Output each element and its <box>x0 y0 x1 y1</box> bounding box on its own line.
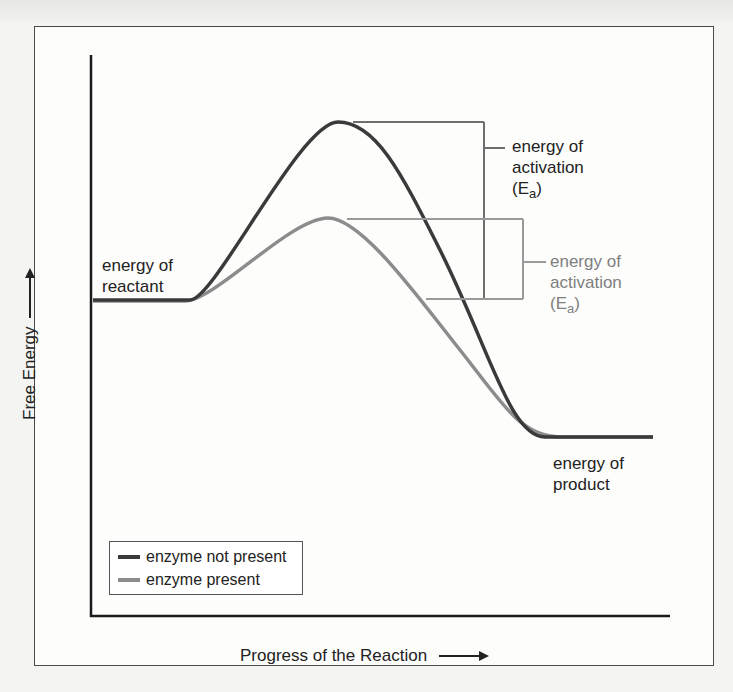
label-line: reactant <box>102 276 173 297</box>
legend-item-enzyme-not-present: enzyme not present <box>118 545 302 568</box>
ea-symbol: (E <box>550 294 567 313</box>
bracket-activation-enzyme <box>347 219 546 299</box>
label-line: activation <box>512 157 584 178</box>
legend: enzyme not present enzyme present <box>109 541 303 595</box>
legend-label: enzyme not present <box>146 548 287 566</box>
bracket-activation-no-enzyme <box>353 122 505 299</box>
label-activation-enzyme: energy of activation (Ea) <box>550 251 622 319</box>
ea-close: ) <box>536 179 542 198</box>
label-line: energy of <box>553 453 624 474</box>
arrow-up-icon <box>29 270 31 318</box>
label-line: (Ea) <box>512 178 584 204</box>
ea-close: ) <box>574 294 580 313</box>
label-line: (Ea) <box>550 293 622 319</box>
label-line: energy of <box>102 255 173 276</box>
legend-swatch-dark <box>118 555 140 559</box>
legend-label: enzyme present <box>146 571 260 589</box>
label-line: product <box>553 474 624 495</box>
x-axis-title: Progress of the Reaction <box>240 646 427 666</box>
label-line: energy of <box>512 136 584 157</box>
label-energy-of-product: energy of product <box>553 453 624 495</box>
arrow-right-icon <box>439 655 487 657</box>
ea-symbol: (E <box>512 179 529 198</box>
legend-swatch-gray <box>118 578 140 582</box>
label-activation-no-enzyme: energy of activation (Ea) <box>512 136 584 204</box>
legend-item-enzyme-present: enzyme present <box>118 568 302 591</box>
label-line: activation <box>550 272 622 293</box>
label-line: energy of <box>550 251 622 272</box>
y-axis-title: Free Energy <box>20 326 40 420</box>
x-axis-label: Progress of the Reaction <box>240 646 487 666</box>
y-axis-label: Free Energy <box>20 270 40 420</box>
label-energy-of-reactant: energy of reactant <box>102 255 173 297</box>
